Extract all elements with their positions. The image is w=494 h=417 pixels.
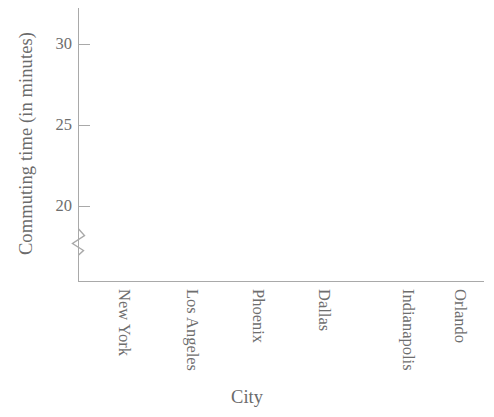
x-axis-title: City: [0, 387, 494, 408]
y-axis-tick-label: 25: [36, 115, 72, 135]
x-axis-category-label: Orlando: [450, 289, 470, 343]
plot-area: [79, 8, 484, 280]
x-axis-category-label: Indianapolis: [398, 289, 418, 371]
x-axis-category-label: New York: [114, 289, 134, 356]
x-axis-category-label: Dallas: [314, 289, 334, 331]
x-axis-line: [78, 281, 484, 282]
chart-container: Commuting time (in minutes) 302520 New Y…: [0, 0, 494, 417]
y-axis-tick-label: 20: [36, 196, 72, 216]
y-axis-tick-label: 30: [36, 34, 72, 54]
x-axis-category-label: Los Angeles: [182, 289, 202, 371]
x-axis-category-label: Phoenix: [248, 289, 268, 343]
y-axis-title: Commuting time (in minutes): [16, 6, 37, 282]
